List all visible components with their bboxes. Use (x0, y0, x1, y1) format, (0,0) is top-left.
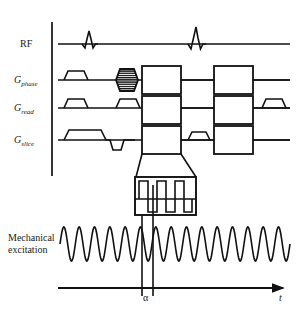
gread-trapezoid-lobe-1 (64, 99, 88, 108)
gslice-trapezoid-lobe (188, 132, 210, 140)
gread-rect-1 (142, 96, 181, 124)
gslice-rect-2 (214, 126, 253, 154)
rf-pulse-refocus (188, 27, 206, 49)
channel-gread (58, 96, 290, 124)
gread-trapezoid-lobe-3 (262, 99, 286, 108)
gphase-rect-2 (214, 66, 253, 94)
callout-edge-left (136, 154, 142, 177)
gphase-encode-hatched-block (116, 69, 138, 91)
label-gslice: Gslice (14, 134, 34, 148)
callout-edge-right (181, 154, 196, 177)
label-time-axis: t (279, 292, 282, 303)
gphase-rect-1 (142, 66, 181, 94)
label-gread: Gread (14, 102, 34, 116)
gread-trapezoid-lobe-2 (116, 99, 140, 108)
label-mechanical-line2: excitation (8, 244, 47, 255)
channel-gphase (58, 66, 290, 94)
gread-rect-2 (214, 96, 253, 124)
label-alpha: α (143, 292, 149, 303)
label-rf: RF (20, 38, 33, 49)
gphase-trapezoid-lobe (64, 71, 88, 80)
magnification-callout (135, 154, 196, 215)
diagram-canvas: RF Gphase Gread Gslice Mechanical excita… (0, 0, 304, 319)
channel-gslice (58, 126, 290, 154)
pulse-sequence-diagram: RF Gphase Gread Gslice Mechanical excita… (0, 0, 304, 319)
channel-rf (58, 27, 290, 49)
gslice-motion-encoding-rect (142, 126, 181, 154)
mechanical-excitation-waveform (60, 227, 290, 261)
label-gphase: Gphase (14, 74, 38, 88)
label-mechanical-line1: Mechanical (8, 232, 55, 243)
rf-pulse-excitation (82, 31, 98, 48)
